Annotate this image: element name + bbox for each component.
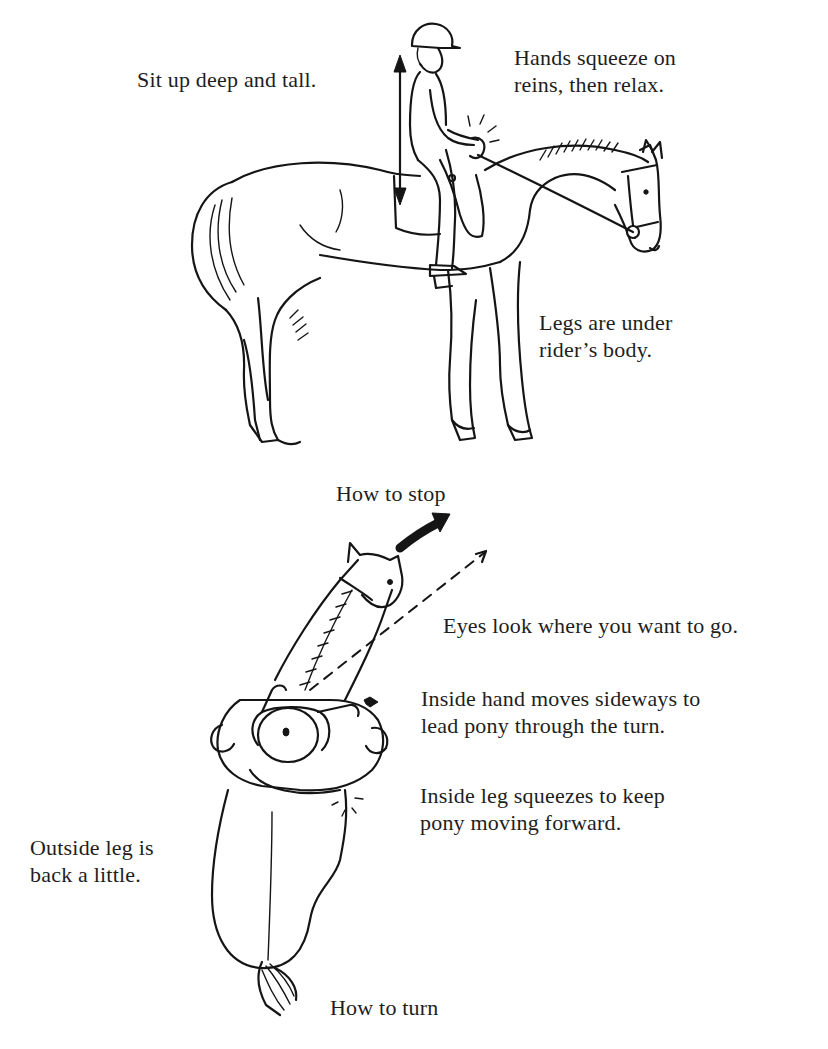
horse-side-view <box>192 139 662 444</box>
hand-direction-arrow-icon <box>364 697 378 707</box>
label-inside-leg: Inside leg squeezes to keep pony moving … <box>420 782 665 836</box>
title-how-to-stop: How to stop <box>336 480 446 507</box>
label-inside-hand-line-2: lead pony through the turn. <box>421 712 701 739</box>
rider <box>410 24 484 288</box>
label-legs-line-1: Legs are under <box>539 309 673 336</box>
label-inside-leg-line-1: Inside leg squeezes to keep <box>420 782 665 809</box>
horse-tail <box>259 962 297 1015</box>
label-hands-squeeze: Hands squeeze on reins, then relax. <box>514 44 676 98</box>
turn-arrow-icon <box>400 513 450 548</box>
title-how-to-turn: How to turn <box>330 994 439 1021</box>
illustration-canvas <box>0 0 828 1049</box>
label-inside-hand-line-1: Inside hand moves sideways to <box>421 685 701 712</box>
label-eyes-look: Eyes look where you want to go. <box>443 612 738 639</box>
leg-squeeze-marks-icon <box>332 798 363 816</box>
label-outside-leg: Outside leg is back a little. <box>30 834 154 888</box>
label-inside-leg-line-2: pony moving forward. <box>420 809 665 836</box>
posture-arrow-icon <box>394 55 406 205</box>
label-inside-hand: Inside hand moves sideways to lead pony … <box>421 685 701 739</box>
label-sit-up: Sit up deep and tall. <box>137 66 317 93</box>
label-outside-leg-line-1: Outside leg is <box>30 834 154 861</box>
label-hands-line-1: Hands squeeze on <box>514 44 676 71</box>
horse-top-view <box>211 543 402 968</box>
label-outside-leg-line-2: back a little. <box>30 861 154 888</box>
turn-illustration <box>211 513 486 1015</box>
label-legs-under: Legs are under rider’s body. <box>539 309 673 363</box>
label-legs-line-2: rider’s body. <box>539 336 673 363</box>
label-hands-line-2: reins, then relax. <box>514 71 676 98</box>
